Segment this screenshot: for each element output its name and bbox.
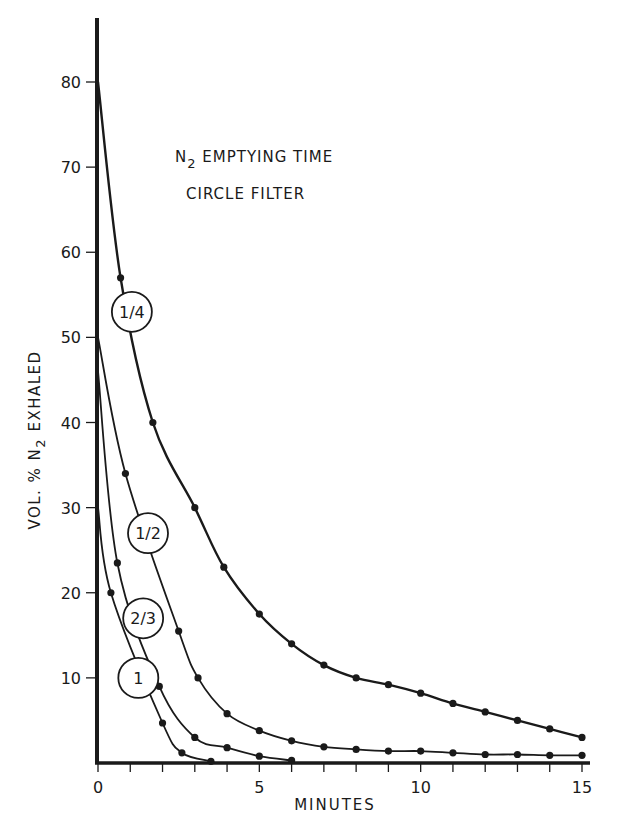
data-point [514,717,521,724]
y-tick-label: 10 [61,669,81,688]
data-point [320,743,327,750]
data-point [353,746,360,753]
data-point [122,470,129,477]
curve-label-text: 2/3 [130,609,156,628]
data-point [320,662,327,669]
data-point [288,757,295,764]
y-tick-label: 70 [61,158,81,177]
data-point [514,751,521,758]
curve-2-3 [98,371,292,760]
data-point [223,710,230,717]
data-point [194,674,201,681]
data-point [578,734,585,741]
data-point [107,589,114,596]
data-point [159,719,166,726]
data-point [482,751,489,758]
curve-label-text: 1/4 [119,303,145,322]
data-point [449,749,456,756]
y-tick-label: 40 [61,414,81,433]
data-point [220,564,227,571]
curves [98,82,586,765]
data-point [178,749,185,756]
curve-label-text: 1/2 [135,524,161,543]
data-point [114,559,121,566]
data-point [256,610,263,617]
chart-title: N2 EMPTYING TIME [175,148,333,171]
y-tick-label: 20 [61,584,81,603]
data-point [288,737,295,744]
y-tick-label: 60 [61,243,81,262]
data-point [449,700,456,707]
x-tick-label: 0 [93,778,103,797]
data-point [207,758,214,765]
y-tick-label: 80 [61,73,81,92]
data-point [385,681,392,688]
data-point [223,744,230,751]
curve-label-text: 1 [133,669,143,688]
curve-1-2 [98,337,582,755]
data-point [256,727,263,734]
curve-labels: 1/41/22/31 [112,292,168,698]
y-axis-label: VOL. % N2 EXHALED [26,350,48,529]
y-tick-label: 30 [61,499,81,518]
data-point [175,627,182,634]
data-point [191,504,198,511]
data-point [546,752,553,759]
chart-subtitle: CIRCLE FILTER [186,185,305,203]
data-point [288,640,295,647]
x-tick-label: 10 [410,778,430,797]
data-point [191,734,198,741]
x-tick-label: 15 [572,778,592,797]
data-point [417,747,424,754]
x-axis-label: MINUTES [294,796,376,814]
x-tick-label: 5 [254,778,264,797]
data-point [546,725,553,732]
data-point [256,753,263,760]
data-point [117,274,124,281]
data-point [385,747,392,754]
data-point [482,708,489,715]
data-point [417,690,424,697]
chart-canvas: 1020304050607080051015 1/41/22/31 N2 EMP… [0,0,620,826]
curve-1-4 [98,82,582,737]
data-point [149,419,156,426]
data-point [578,752,585,759]
data-point [353,674,360,681]
y-tick-label: 50 [61,328,81,347]
